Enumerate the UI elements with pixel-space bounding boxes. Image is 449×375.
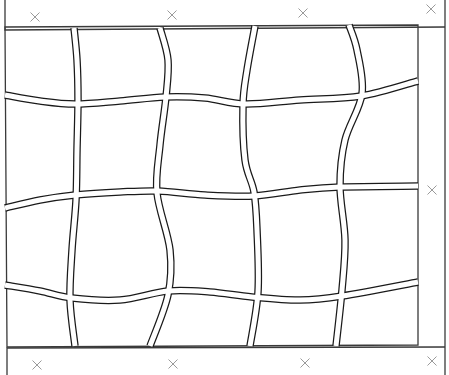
control-handle-x-icon[interactable] [299, 9, 308, 18]
control-handle-x-icon[interactable] [31, 13, 40, 22]
mesh-warp-canvas[interactable] [0, 0, 449, 375]
control-handle-x-icon[interactable] [428, 186, 437, 195]
control-handle-x-icon[interactable] [301, 359, 310, 368]
warp-grid-lines[interactable] [5, 25, 418, 346]
control-handle-x-icon[interactable] [427, 5, 436, 14]
control-handle-x-icon[interactable] [169, 360, 178, 369]
control-handle-x-icon[interactable] [33, 361, 42, 370]
control-handle-x-icon[interactable] [428, 357, 437, 366]
control-handle-x-icon[interactable] [168, 11, 177, 20]
frame-bottom-strip [7, 347, 445, 375]
